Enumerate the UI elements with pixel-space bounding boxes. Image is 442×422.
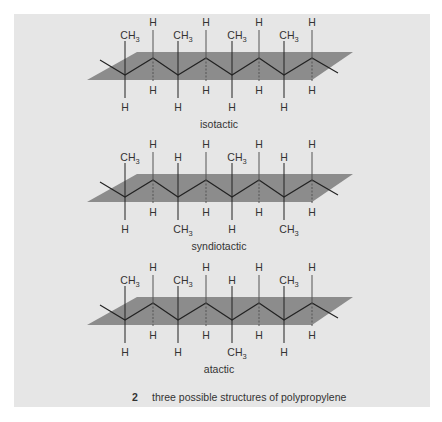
methyl-group: CH3	[279, 29, 298, 44]
hydrogen-atom: H	[308, 16, 316, 28]
hydrogen-atom: H	[121, 101, 129, 113]
hydrogen-atom: H	[308, 84, 316, 96]
structure-syndiotactic: CH3HHHHCH3HHCH3HHHHCH3HHsyndiotactic	[87, 138, 353, 252]
methyl-group: CH3	[120, 29, 139, 44]
hydrogen-atom: H	[280, 151, 288, 163]
structure-isotactic: CH3HHHCH3HHHCH3HHHCH3HHHisotactic	[87, 16, 353, 130]
hydrogen-atom: H	[149, 84, 157, 96]
hydrogen-atom: H	[255, 138, 263, 150]
hydrogen-atom: H	[228, 274, 236, 286]
hydrogen-atom: H	[202, 16, 210, 28]
hydrogen-atom: H	[202, 138, 210, 150]
plane	[87, 174, 353, 202]
figure-number: 2	[132, 391, 138, 403]
hydrogen-atom: H	[174, 346, 182, 358]
methyl-group: CH3	[173, 223, 192, 238]
figure-caption: 2 three possible structures of polypropy…	[132, 391, 347, 403]
methyl-group: CH3	[227, 151, 246, 166]
hydrogen-atom: H	[121, 223, 129, 235]
hydrogen-atom: H	[308, 138, 316, 150]
methyl-group: CH3	[227, 29, 246, 44]
hydrogen-atom: H	[202, 206, 210, 218]
hydrogen-atom: H	[121, 346, 129, 358]
hydrogen-atom: H	[174, 101, 182, 113]
structure-label-syndiotactic: syndiotactic	[192, 240, 247, 252]
polypropylene-diagram: CH3HHHCH3HHHCH3HHHCH3HHHisotacticCH3HHHH…	[0, 0, 442, 422]
hydrogen-atom: H	[255, 329, 263, 341]
hydrogen-atom: H	[280, 346, 288, 358]
hydrogen-atom: H	[202, 84, 210, 96]
hydrogen-atom: H	[308, 261, 316, 273]
methyl-group: CH3	[120, 274, 139, 289]
hydrogen-atom: H	[228, 101, 236, 113]
methyl-group: CH3	[279, 274, 298, 289]
hydrogen-atom: H	[174, 151, 182, 163]
plane	[87, 297, 353, 325]
structure-label-atactic: atactic	[204, 363, 234, 375]
hydrogen-atom: H	[149, 206, 157, 218]
hydrogen-atom: H	[308, 329, 316, 341]
hydrogen-atom: H	[255, 84, 263, 96]
structure-atactic: CH3HHHCH3HHHHCH3HHCH3HHHatactic	[87, 261, 353, 375]
structure-label-isotactic: isotactic	[200, 118, 238, 130]
methyl-group: CH3	[279, 223, 298, 238]
hydrogen-atom: H	[228, 223, 236, 235]
plane	[87, 52, 353, 80]
hydrogen-atom: H	[149, 16, 157, 28]
hydrogen-atom: H	[149, 138, 157, 150]
figure-caption-text: three possible structures of polypropyle…	[152, 391, 347, 403]
hydrogen-atom: H	[308, 206, 316, 218]
hydrogen-atom: H	[255, 261, 263, 273]
hydrogen-atom: H	[202, 329, 210, 341]
methyl-group: CH3	[120, 151, 139, 166]
hydrogen-atom: H	[280, 101, 288, 113]
methyl-group: CH3	[173, 274, 192, 289]
hydrogen-atom: H	[149, 329, 157, 341]
hydrogen-atom: H	[149, 261, 157, 273]
hydrogen-atom: H	[255, 206, 263, 218]
methyl-group: CH3	[227, 346, 246, 361]
methyl-group: CH3	[173, 29, 192, 44]
hydrogen-atom: H	[255, 16, 263, 28]
hydrogen-atom: H	[202, 261, 210, 273]
